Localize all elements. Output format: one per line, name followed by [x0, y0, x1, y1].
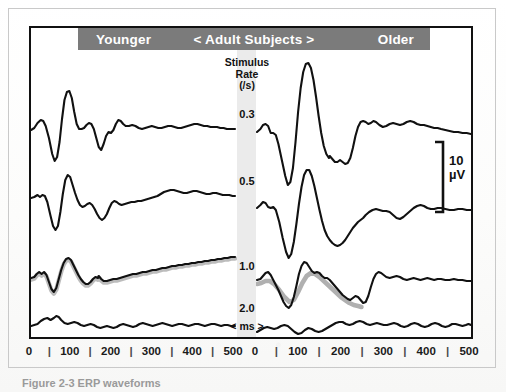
amplitude-scale-bar	[432, 140, 448, 214]
axis-tick-label-right-200: 200	[331, 345, 350, 357]
rate-tick-2-0: 2.0	[227, 302, 267, 314]
scale-unit: µV	[449, 168, 465, 182]
rate-tick-1-0: 1.0	[227, 260, 267, 272]
axis-tick-label-right-300: 300	[374, 345, 393, 357]
axis-separator: |	[403, 345, 406, 357]
axis-separator: |	[129, 345, 132, 357]
axis-separator: |	[48, 345, 51, 357]
group-header-bar: Younger < Adult Subjects > Older	[78, 28, 430, 50]
axis-tick-label-right-100: 100	[288, 345, 307, 357]
header-label-younger: Younger	[96, 32, 151, 47]
axis-tick-label-right-0: 0	[252, 345, 258, 357]
time-axis: 0|100|200|300|400|5000|100|200|300|400|5…	[29, 345, 473, 365]
scale-value: 10	[449, 154, 465, 168]
header-label-adult-subjects: < Adult Subjects >	[194, 32, 315, 47]
waveform-trace	[31, 91, 235, 161]
rate-tick-0-3: 0.3	[227, 108, 267, 120]
axis-separator: |	[318, 345, 321, 357]
axis-separator: |	[89, 345, 92, 357]
figure-caption: Figure 2-3 ERP waveforms	[22, 377, 492, 391]
trace-shadow	[31, 259, 235, 294]
axis-tick-label-right-400: 400	[417, 345, 436, 357]
plot-area: Younger < Adult Subjects > Older Stimulu…	[29, 26, 473, 339]
axis-separator: |	[446, 345, 449, 357]
axis-separator: |	[170, 345, 173, 357]
axis-separator: |	[275, 345, 278, 357]
axis-tick-label-left-200: 200	[101, 345, 120, 357]
waveform-trace	[31, 175, 235, 230]
axis-tick-label-left-100: 100	[60, 345, 79, 357]
axis-separator: |	[211, 345, 214, 357]
axis-tick-label-left-500: 500	[223, 345, 242, 357]
rate-tick-0-5: 0.5	[227, 175, 267, 187]
ms-axis-caption: < ms >	[217, 320, 277, 332]
axis-tick-label-left-0: 0	[26, 345, 32, 357]
scale-bar-label: 10 µV	[449, 154, 465, 181]
header-label-older: Older	[378, 32, 414, 47]
erp-figure: Younger < Adult Subjects > Older Stimulu…	[0, 0, 506, 392]
waveform-trace	[31, 316, 235, 328]
axis-tick-label-left-300: 300	[142, 345, 161, 357]
rate-caption-line3: (/s)	[216, 80, 278, 92]
axis-separator: |	[360, 345, 363, 357]
waveform-trace	[257, 321, 471, 334]
stimulus-rate-caption: Stimulus Rate (/s)	[216, 57, 278, 92]
axis-tick-label-left-400: 400	[183, 345, 202, 357]
rate-caption-line1: Stimulus	[216, 57, 278, 69]
axis-tick-label-right-500: 500	[459, 345, 478, 357]
